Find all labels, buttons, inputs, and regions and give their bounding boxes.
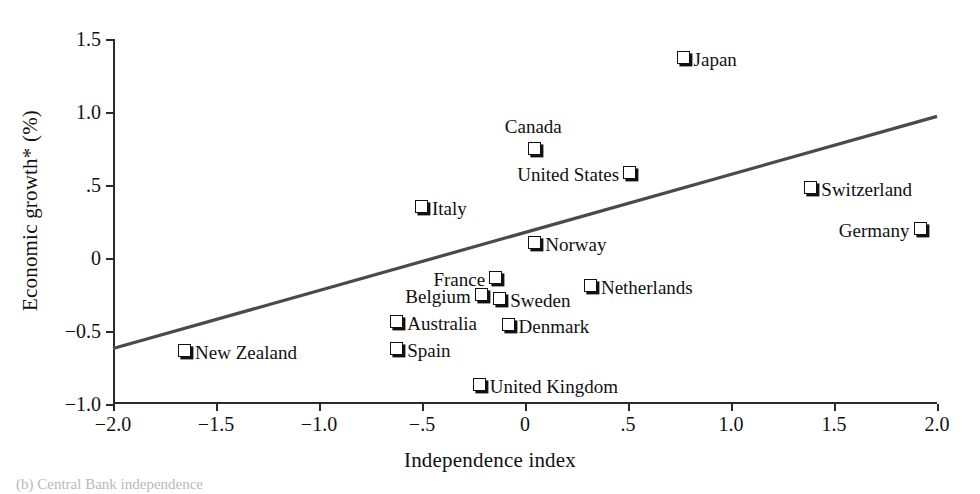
x-tick-label: −1.5: [198, 413, 234, 436]
square-marker-icon: [677, 51, 690, 64]
x-tick: [216, 404, 218, 411]
data-point-label: Belgium: [405, 287, 470, 306]
x-tick-label: 1.0: [719, 413, 744, 436]
square-marker-icon: [390, 342, 403, 355]
plot-area: 1.51.0.50−0.5−1.0 −2.0−1.5−1.0−.50.51.01…: [113, 39, 937, 404]
x-axis-title: Independence index: [0, 448, 980, 473]
data-point-label: Spain: [407, 341, 450, 360]
y-tick-label: 1.5: [76, 28, 101, 51]
square-marker-icon: [473, 378, 486, 391]
data-point-label: Australia: [407, 314, 477, 333]
y-tick-label: −0.5: [65, 320, 101, 343]
data-point-label: Sweden: [510, 291, 570, 310]
square-marker-icon: [528, 236, 541, 249]
scatter-plot-figure: Economic growth* (%) Independence index …: [0, 0, 980, 494]
y-tick-label: 0: [91, 247, 101, 270]
square-marker-icon: [804, 181, 817, 194]
x-tick: [731, 404, 733, 411]
y-tick: [106, 331, 113, 333]
data-point-label: United States: [517, 165, 619, 184]
data-point-label: United Kingdom: [490, 377, 618, 396]
data-point-label: New Zealand: [195, 343, 297, 362]
x-tick-label: .5: [621, 413, 636, 436]
square-marker-icon: [489, 271, 502, 284]
square-marker-icon: [493, 292, 506, 305]
x-tick-label: 2.0: [925, 413, 950, 436]
x-tick: [319, 404, 321, 411]
y-tick: [106, 258, 113, 260]
y-axis-title: Economic growth* (%): [18, 41, 43, 381]
data-point-label: Italy: [432, 199, 467, 218]
data-point-label: Canada: [505, 117, 562, 136]
y-tick-label: .5: [86, 174, 101, 197]
square-marker-icon: [390, 315, 403, 328]
square-marker-icon: [623, 166, 636, 179]
x-tick: [525, 404, 527, 411]
y-tick: [106, 404, 113, 406]
data-point-label: Norway: [545, 235, 606, 254]
square-marker-icon: [475, 288, 488, 301]
data-point-label: Germany: [839, 221, 910, 240]
x-tick-label: 0: [520, 413, 530, 436]
data-point-label: Japan: [694, 50, 737, 69]
data-point-label: Denmark: [519, 317, 590, 336]
square-marker-icon: [584, 279, 597, 292]
x-tick: [113, 404, 115, 411]
x-tick-label: 1.5: [822, 413, 847, 436]
square-marker-icon: [502, 318, 515, 331]
x-tick: [422, 404, 424, 411]
x-tick-label: −2.0: [95, 413, 131, 436]
square-marker-icon: [178, 344, 191, 357]
data-point-label: Netherlands: [601, 278, 693, 297]
y-tick-label: 1.0: [76, 101, 101, 124]
x-tick-label: −.5: [409, 413, 435, 436]
data-point-label: Switzerland: [821, 180, 912, 199]
x-tick: [937, 404, 939, 411]
y-tick: [106, 39, 113, 41]
y-tick: [106, 112, 113, 114]
square-marker-icon: [415, 200, 428, 213]
figure-caption: (b) Central Bank independence: [16, 476, 203, 493]
x-tick-label: −1.0: [301, 413, 337, 436]
x-tick: [628, 404, 630, 411]
x-tick: [834, 404, 836, 411]
y-tick: [106, 185, 113, 187]
square-marker-icon: [528, 142, 541, 155]
square-marker-icon: [914, 222, 927, 235]
